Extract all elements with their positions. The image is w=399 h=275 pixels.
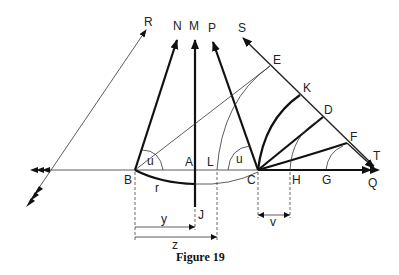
label-H: H [292,173,301,187]
dim-v-arrow-l [258,212,264,218]
label-Q: Q [368,176,377,190]
left-triple-arrow [30,167,50,173]
label-P: P [208,21,216,35]
line-CP [213,42,258,170]
q-double-arrow [362,166,380,174]
dim-v-arrow-r [284,212,290,218]
label-v: v [270,215,276,229]
dim-y-arrow [189,224,195,230]
arc-LE [217,66,270,170]
arc-H [290,121,318,170]
label-D: D [324,103,333,117]
label-N: N [173,19,182,33]
figure-caption: Figure 19 [176,250,225,264]
label-S: S [238,21,246,35]
label-B: B [124,173,132,187]
label-u-right: u [236,152,243,166]
label-L: L [207,155,214,169]
label-E: E [273,53,281,67]
line-BN [135,40,177,170]
label-C: C [247,173,256,187]
label-R: R [144,15,153,29]
label-K: K [303,81,311,95]
label-J: J [198,208,204,222]
label-G: G [322,173,331,187]
line-to-T [347,143,374,168]
r-triple-arrow-tail [26,186,43,207]
dim-z-arrow [211,234,217,240]
label-y: y [161,212,167,226]
label-r: r [155,181,159,195]
label-u-left: u [147,154,154,168]
curve-CF [258,143,347,170]
label-F: F [350,130,357,144]
label-T: T [373,149,381,163]
label-M: M [189,19,199,33]
label-A: A [185,155,193,169]
figure-diagram: R N M P S E K D F T B A L C H G Q J u u … [0,0,399,275]
curve-BJ [135,170,195,184]
